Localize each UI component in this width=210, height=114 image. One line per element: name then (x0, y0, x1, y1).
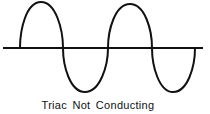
diagram-caption: Triac Not Conducting (0, 99, 196, 111)
waveform-diagram (0, 0, 210, 114)
